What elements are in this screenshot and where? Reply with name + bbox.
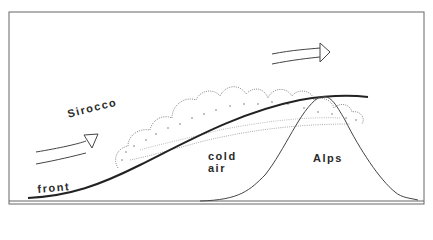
sirocco-arrow-icon (36, 134, 98, 164)
alps-mountain (200, 97, 418, 201)
label-air: air (208, 162, 226, 175)
outflow-arrow-icon (272, 43, 330, 64)
label-alps: Alps (313, 152, 343, 165)
